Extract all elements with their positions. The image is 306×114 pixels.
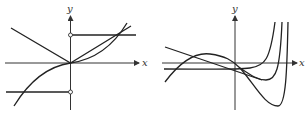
right-x-label: x <box>299 57 305 68</box>
right-graph: x y <box>162 3 305 110</box>
right-y-label: y <box>231 3 238 14</box>
left-x-label: x <box>142 57 148 68</box>
right-hump-curve <box>165 54 240 82</box>
left-open-circle-top <box>69 33 73 37</box>
graphs-canvas: x y x y <box>0 0 306 114</box>
left-graph: x y <box>5 3 148 110</box>
left-open-circle-bottom <box>69 90 73 94</box>
right-curve-2 <box>240 22 282 80</box>
right-curve-1 <box>164 22 275 69</box>
left-y-label: y <box>66 3 73 14</box>
